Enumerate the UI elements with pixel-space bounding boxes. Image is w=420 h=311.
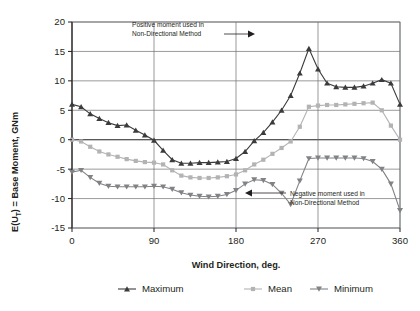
y-axis-title-prefix: E(U (10, 216, 20, 232)
chart-axis-layer: -15-10-505101520090180270360 (51, 16, 408, 246)
x-tick-label-180: 180 (228, 235, 244, 246)
data-point (352, 102, 356, 106)
annotation-positive-line-2: Non-Directional Method (132, 30, 202, 37)
data-point (397, 102, 403, 107)
data-point (371, 101, 375, 105)
x-axis-title: Wind Direction, deg. (192, 260, 281, 270)
chart-figure: -15-10-505101520090180270360 E(UT) = Bas… (0, 0, 420, 311)
data-point (69, 102, 75, 107)
annotation-negative-moment: Negative moment used in Non-Directional … (245, 190, 365, 207)
data-point (88, 145, 92, 149)
y-axis-title: E(UT) = Base Moment, GNm (10, 112, 22, 232)
data-point (398, 138, 402, 142)
data-point (87, 175, 93, 180)
data-point (298, 125, 302, 129)
data-point (216, 175, 220, 179)
legend-item-mean[interactable]: Mean (244, 283, 292, 294)
data-point (179, 174, 183, 178)
data-point (97, 149, 101, 153)
legend-marker-mean (251, 287, 255, 291)
annotation-negative-arrowhead (245, 190, 252, 197)
chart-legend: MaximumMeanMinimum (118, 283, 373, 294)
data-point (288, 93, 294, 98)
data-point (316, 103, 320, 107)
data-point (289, 139, 293, 143)
data-point (105, 120, 111, 125)
data-point (207, 176, 211, 180)
data-point (96, 116, 102, 121)
y-tick-label-0: 0 (60, 134, 65, 145)
annotation-positive-line-1: Positive moment used in (132, 21, 204, 28)
data-point (252, 162, 256, 166)
y-tick-label--5: -5 (56, 164, 65, 175)
data-point (169, 187, 175, 192)
data-point (397, 208, 403, 213)
data-point (388, 181, 394, 186)
data-point (243, 168, 247, 172)
x-tick-label-0: 0 (69, 235, 74, 246)
x-tick-label-270: 270 (310, 235, 326, 246)
annotation-positive-arrowhead (248, 31, 255, 38)
x-tick-label-360: 360 (392, 235, 408, 246)
data-point (279, 146, 283, 150)
data-point (106, 152, 110, 156)
data-point (197, 176, 201, 180)
y-tick-label-20: 20 (54, 16, 65, 27)
data-point (79, 139, 83, 143)
chart-svg: -15-10-505101520090180270360 E(UT) = Bas… (0, 0, 420, 311)
legend-label-maximum: Maximum (142, 283, 184, 294)
x-tick-label-90: 90 (149, 235, 160, 246)
data-point (297, 70, 303, 75)
data-point (380, 108, 384, 112)
data-point (134, 159, 138, 163)
data-point (343, 102, 347, 106)
data-point (325, 103, 329, 107)
legend-label-minimum: Minimum (334, 283, 373, 294)
data-point (115, 155, 119, 159)
data-point (307, 105, 311, 109)
data-point (315, 66, 321, 71)
data-point (297, 179, 303, 184)
y-tick-label--10: -10 (51, 193, 65, 204)
data-point (234, 172, 238, 176)
data-point (125, 157, 129, 161)
data-point (306, 46, 312, 51)
data-point (379, 77, 385, 82)
y-tick-label--15: -15 (51, 222, 65, 233)
annotation-positive-moment: Positive moment used in Non-Directional … (132, 21, 255, 38)
data-point (233, 188, 239, 193)
y-tick-label-10: 10 (54, 75, 65, 86)
data-point (261, 158, 265, 162)
data-point (389, 123, 393, 127)
svg-text:E(UT) = Base Moment, GNm: E(UT) = Base Moment, GNm (10, 112, 22, 232)
data-point (225, 174, 229, 178)
data-point (152, 161, 156, 165)
data-point (69, 170, 75, 175)
legend-item-minimum[interactable]: Minimum (310, 283, 373, 294)
data-point (143, 160, 147, 164)
annotation-negative-line-1: Negative moment used in (290, 190, 365, 198)
data-point (361, 101, 365, 105)
legend-label-mean: Mean (268, 283, 292, 294)
legend-item-maximum[interactable]: Maximum (118, 283, 184, 294)
y-tick-label-5: 5 (60, 105, 65, 116)
data-point (170, 168, 174, 172)
y-tick-label-15: 15 (54, 46, 65, 57)
data-point (142, 132, 148, 137)
data-point (188, 175, 192, 179)
y-axis-title-suffix: ) = Base Moment, GNm (10, 112, 20, 212)
data-point (161, 162, 165, 166)
annotation-negative-line-2: Non-Directional Method (290, 199, 360, 206)
data-point (270, 152, 274, 156)
data-point (334, 103, 338, 107)
data-point (133, 127, 139, 132)
